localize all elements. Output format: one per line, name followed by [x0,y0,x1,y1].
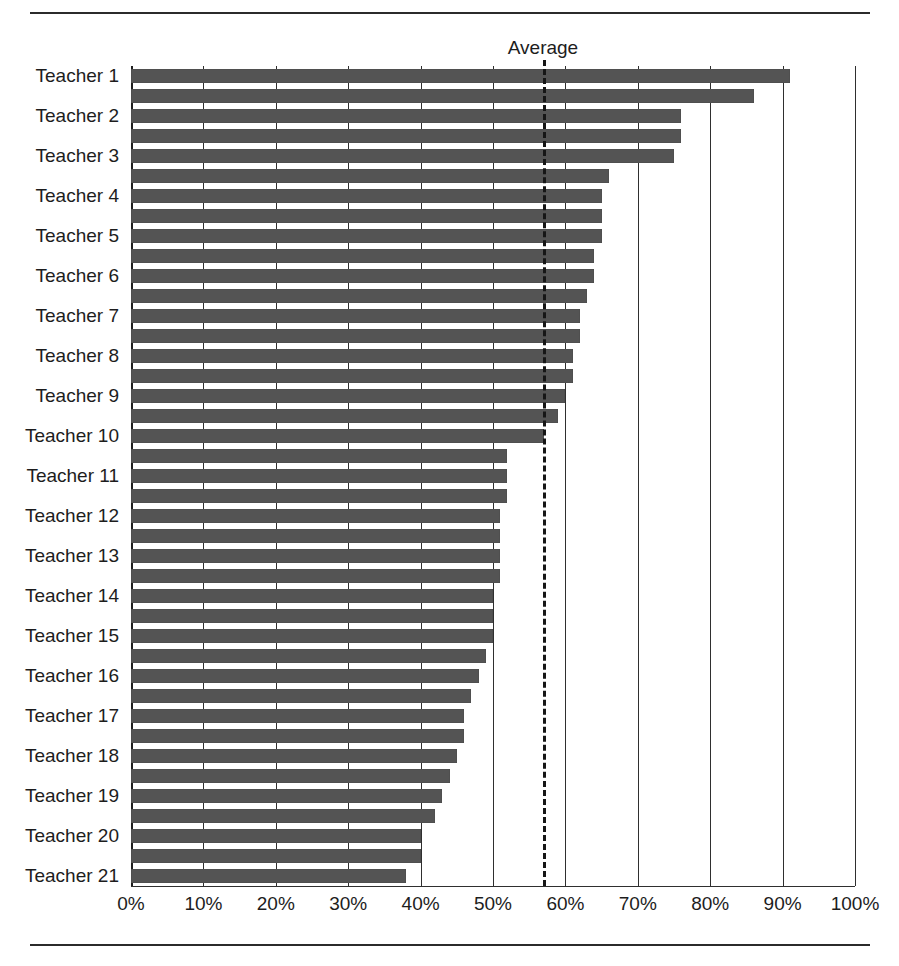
bar-row [131,529,855,542]
bar [131,109,681,122]
category-label-5: Teacher 5 [36,225,119,247]
bar-row [131,189,855,202]
x-tick-label-60: 60% [546,893,584,915]
category-label-11: Teacher 11 [26,465,119,487]
bar [131,429,544,442]
bar [131,849,421,862]
bar [131,789,442,802]
bar [131,509,500,522]
category-label-13: Teacher 13 [25,545,119,567]
bar [131,829,421,842]
bar-row [131,769,855,782]
bar-row [131,849,855,862]
bar-row [131,149,855,162]
category-label-19: Teacher 19 [25,785,119,807]
bar-row [131,829,855,842]
bottom-rule [30,944,870,946]
bar-row [131,209,855,222]
x-tick-label-50: 50% [474,893,512,915]
category-label-3: Teacher 3 [36,145,119,167]
category-label-1: Teacher 1 [36,65,119,87]
category-label-16: Teacher 16 [25,665,119,687]
bar-row [131,449,855,462]
bar [131,469,507,482]
category-label-2: Teacher 2 [36,105,119,127]
bar-row [131,129,855,142]
bar [131,669,479,682]
bar [131,649,486,662]
category-label-18: Teacher 18 [25,745,119,767]
bar-row [131,629,855,642]
gridline-100 [855,66,856,886]
bar-row [131,809,855,822]
x-tick-label-30: 30% [329,893,367,915]
bar [131,749,457,762]
bar [131,389,565,402]
bar [131,629,493,642]
bar-row [131,589,855,602]
category-label-6: Teacher 6 [36,265,119,287]
bar [131,709,464,722]
x-tick-label-80: 80% [691,893,729,915]
chart-figure: Teacher 1Teacher 2Teacher 3Teacher 4Teac… [0,0,899,966]
x-tick-label-100: 100% [831,893,880,915]
category-label-21: Teacher 21 [25,865,119,887]
bar-row [131,709,855,722]
bar [131,89,754,102]
bar-row [131,89,855,102]
category-label-12: Teacher 12 [25,505,119,527]
bar-row [131,729,855,742]
bar [131,529,500,542]
bar [131,729,464,742]
category-label-20: Teacher 20 [25,825,119,847]
category-axis-labels: Teacher 1Teacher 2Teacher 3Teacher 4Teac… [0,66,125,886]
bar-row [131,289,855,302]
bar-row [131,569,855,582]
bar [131,609,493,622]
x-tick-label-10: 10% [184,893,222,915]
category-label-8: Teacher 8 [36,345,119,367]
category-label-9: Teacher 9 [36,385,119,407]
bar-row [131,69,855,82]
bar-row [131,469,855,482]
x-axis-baseline [131,886,855,887]
x-tick-label-90: 90% [764,893,802,915]
bar-row [131,169,855,182]
bar-row [131,109,855,122]
bar [131,409,558,422]
bar-row [131,369,855,382]
bar-row [131,269,855,282]
bar-row [131,749,855,762]
bar-row [131,249,855,262]
bar [131,449,507,462]
bar [131,869,406,882]
bar-series [131,66,855,886]
top-rule [30,12,870,14]
bar [131,569,500,582]
bar-row [131,549,855,562]
bar-row [131,689,855,702]
category-label-4: Teacher 4 [36,185,119,207]
bar [131,169,609,182]
bar-row [131,349,855,362]
plot-area: Average [131,66,855,886]
bar [131,769,450,782]
bar-row [131,309,855,322]
x-tick-label-40: 40% [402,893,440,915]
bar-row [131,869,855,882]
bar [131,209,602,222]
category-label-7: Teacher 7 [36,305,119,327]
bar-row [131,229,855,242]
bar-row [131,609,855,622]
bar [131,549,500,562]
x-tick-label-0: 0% [117,893,144,915]
bar [131,189,602,202]
bar-row [131,489,855,502]
x-tick-label-70: 70% [619,893,657,915]
bar-row [131,329,855,342]
bar-row [131,409,855,422]
bar [131,69,790,82]
bar [131,489,507,502]
category-label-15: Teacher 15 [25,625,119,647]
category-label-10: Teacher 10 [25,425,119,447]
